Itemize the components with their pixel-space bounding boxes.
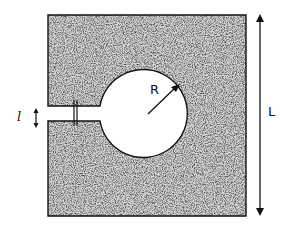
slot-width-arrow: [34, 108, 39, 128]
side-length-label: L: [268, 104, 275, 119]
slot-width-label: l: [17, 109, 21, 124]
plate: [48, 15, 246, 216]
radius-label: R: [150, 82, 159, 97]
side-length-arrow: [256, 14, 264, 216]
diagram-canvas: [0, 0, 288, 227]
